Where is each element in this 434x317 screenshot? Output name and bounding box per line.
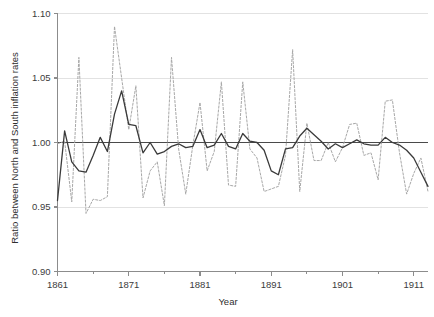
y-tick-label: 0.95 <box>32 201 51 212</box>
y-tick-label: 1.10 <box>32 8 51 19</box>
x-tick-label: 1861 <box>47 279 68 290</box>
x-tick-label: 1891 <box>261 279 282 290</box>
x-tick-label: 1871 <box>118 279 139 290</box>
x-tick-label: 1881 <box>189 279 210 290</box>
line-chart: 0.900.951.001.051.10 1861187118811891190… <box>0 0 434 317</box>
x-tick-label: 1911 <box>404 279 424 290</box>
x-tick-label: 1901 <box>332 279 353 290</box>
y-tick-label: 1.00 <box>32 137 51 148</box>
figure-background <box>0 0 434 317</box>
y-tick-label: 0.90 <box>32 266 51 277</box>
y-tick-label: 1.05 <box>32 72 51 83</box>
x-axis-title: Year <box>218 296 237 307</box>
y-axis-title: Ratio between North and South inflation … <box>9 52 20 244</box>
chart-figure: 0.900.951.001.051.10 1861187118811891190… <box>0 0 434 317</box>
